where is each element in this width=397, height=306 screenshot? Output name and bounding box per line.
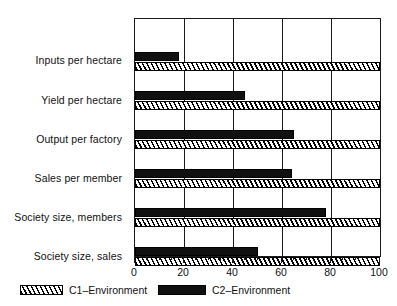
plot-inner — [135, 19, 380, 256]
category-axis: Inputs per hectare Yield per hectare Out… — [0, 18, 128, 255]
bar-c1-environment — [135, 179, 380, 188]
x-tick-minor-10 — [159, 256, 160, 260]
legend-entry-c2-environment: C2–Environment — [158, 283, 290, 297]
x-tick-major-40 — [232, 256, 233, 263]
chart-legend: C1–Environment C2–Environment — [0, 283, 397, 299]
x-tick-label-0: 0 — [131, 266, 137, 279]
x-tick-major-80 — [330, 256, 331, 263]
category-label-5: Society size, sales — [0, 250, 122, 262]
x-tick-minor-85 — [342, 256, 343, 260]
bar-c2-environment — [135, 130, 294, 139]
bar-c2-environment — [135, 91, 245, 100]
category-label-2: Output per factory — [0, 133, 122, 145]
bar-chart-figure: Inputs per hectare Yield per hectare Out… — [0, 0, 397, 306]
x-tick-minor-75 — [318, 256, 319, 260]
x-tick-minor-15 — [171, 256, 172, 260]
category-label-1: Yield per hectare — [0, 94, 122, 106]
category-label-4: Society size, members — [0, 211, 122, 223]
legend-entry-c1-environment: C1–Environment — [20, 283, 147, 297]
legend-label-c2-environment: C2–Environment — [212, 284, 290, 296]
bar-c2-environment — [135, 169, 292, 178]
x-tick-minor-70 — [306, 256, 307, 260]
x-tick-major-20 — [183, 256, 184, 263]
x-tick-label-100: 100 — [370, 266, 388, 279]
bar-c2-environment — [135, 208, 326, 217]
x-tick-major-0 — [134, 256, 135, 263]
bar-c1-environment — [135, 218, 380, 227]
x-tick-label-60: 60 — [275, 266, 287, 279]
bar-c1-environment — [135, 101, 380, 110]
x-tick-minor-35 — [220, 256, 221, 260]
x-axis-labels: 0 20 40 60 80 100 — [0, 266, 397, 280]
x-tick-minor-45 — [244, 256, 245, 260]
bar-c2-environment — [135, 247, 258, 256]
legend-label-c1-environment: C1–Environment — [69, 284, 147, 296]
x-tick-major-100 — [379, 256, 380, 263]
x-tick-minor-90 — [355, 256, 356, 260]
legend-swatch-hatch-icon — [20, 285, 63, 295]
x-tick-label-80: 80 — [324, 266, 336, 279]
x-tick-minor-50 — [257, 256, 258, 260]
legend-swatch-solid-icon — [158, 285, 206, 295]
x-tick-minor-55 — [269, 256, 270, 260]
x-tick-minor-30 — [208, 256, 209, 260]
x-tick-minor-25 — [195, 256, 196, 260]
x-tick-minor-65 — [293, 256, 294, 260]
x-axis-ticks — [134, 256, 380, 264]
bar-c1-environment — [135, 62, 380, 71]
x-tick-minor-95 — [367, 256, 368, 260]
x-tick-minor-5 — [146, 256, 147, 260]
x-tick-label-40: 40 — [226, 266, 238, 279]
bar-c2-environment — [135, 52, 179, 61]
category-label-0: Inputs per hectare — [0, 54, 122, 66]
category-label-3: Sales per member — [0, 172, 122, 184]
x-tick-label-20: 20 — [177, 266, 189, 279]
x-tick-major-60 — [281, 256, 282, 263]
bar-c1-environment — [135, 140, 380, 149]
plot-area — [134, 18, 381, 257]
